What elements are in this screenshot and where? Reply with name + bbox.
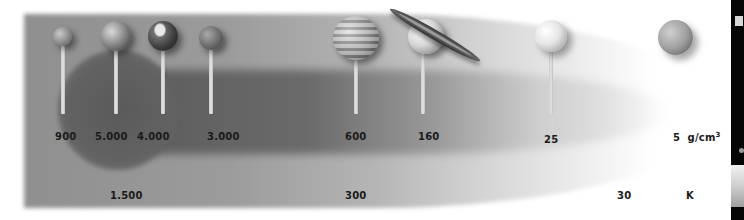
uranus-stick bbox=[549, 50, 553, 114]
earth-icon bbox=[148, 21, 178, 51]
mercury-icon bbox=[53, 27, 72, 46]
panel-letter-fragment bbox=[735, 16, 743, 26]
panel-dot bbox=[739, 148, 744, 153]
density-unit: g/cm bbox=[688, 132, 716, 143]
saturn-density-label: 160 bbox=[418, 131, 439, 142]
jupiter-density-label: 600 bbox=[345, 131, 366, 142]
mercury-stick bbox=[61, 46, 65, 114]
uranus-icon bbox=[535, 20, 567, 52]
temperature-unit: K bbox=[686, 190, 694, 201]
mars-icon bbox=[199, 26, 223, 50]
mercury-density-label: 900 bbox=[55, 131, 76, 142]
panel-photo-fragment bbox=[731, 165, 744, 207]
temperature-label-outer: 30 bbox=[617, 190, 631, 201]
mars-stick bbox=[209, 48, 213, 114]
temperature-label-inner: 1.500 bbox=[110, 190, 143, 201]
uranus-density-label: 25 bbox=[544, 134, 558, 145]
planet-diagram: 900 5.000 4.000 3.000 600 160 25 5 g/cm3… bbox=[0, 0, 744, 220]
neptune-icon bbox=[658, 20, 693, 55]
saturn-stick bbox=[421, 52, 425, 114]
neptune-density-value: 5 bbox=[673, 132, 680, 143]
jupiter-stick bbox=[354, 60, 358, 114]
earth-stick bbox=[161, 50, 165, 114]
venus-icon bbox=[101, 21, 131, 51]
earth-density-label: 4.000 bbox=[137, 131, 170, 142]
jupiter-icon bbox=[333, 16, 379, 60]
neptune-density-label: 5 g/cm3 bbox=[673, 131, 721, 143]
temperature-label-middle: 300 bbox=[345, 190, 366, 201]
terrestrial-zone-shadow bbox=[58, 50, 178, 170]
mars-density-label: 3.000 bbox=[207, 131, 240, 142]
density-unit-exponent: 3 bbox=[716, 131, 721, 139]
venus-density-label: 5.000 bbox=[95, 131, 128, 142]
venus-stick bbox=[114, 50, 118, 114]
adjacent-image-panel bbox=[731, 0, 744, 220]
